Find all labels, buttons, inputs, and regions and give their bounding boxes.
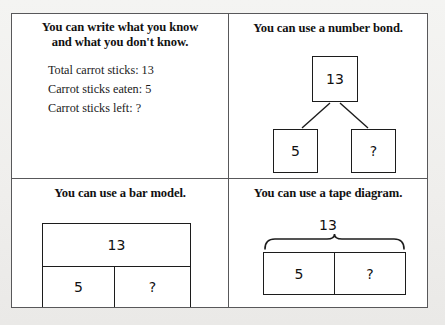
bar-model-diagram: 13 5 ? (42, 223, 191, 307)
fact-list: Total carrot sticks: 13 Carrot sticks ea… (48, 61, 228, 118)
tape-diagram-total-label: 13 (229, 216, 427, 234)
quadrant-tape-diagram: You can use a tape diagram. 13 5 ? (229, 179, 427, 307)
bar-model-total-cell: 13 (43, 224, 190, 267)
bar-model-part-unknown-cell: ? (115, 267, 190, 307)
tape-diagram-part-unknown-value: ? (366, 267, 373, 281)
fact-total: Total carrot sticks: 13 (48, 61, 228, 80)
number-bond-part-known-value: 5 (291, 144, 300, 158)
tape-diagram-rect: 5 ? (263, 252, 406, 295)
bar-model-total-value: 13 (108, 238, 126, 252)
number-bond-diagram: 13 5 ? (229, 14, 427, 178)
number-bond-part-unknown-value: ? (370, 144, 377, 158)
tape-diagram-diagram: 13 5 ? (229, 179, 427, 307)
fact-left: Carrot sticks left: ? (48, 99, 228, 118)
tape-diagram-part-known-value: 5 (295, 267, 304, 281)
fact-eaten: Carrot sticks eaten: 5 (48, 80, 228, 99)
number-bond-part-unknown-box: ? (351, 129, 396, 173)
tape-diagram-part-known-cell: 5 (264, 253, 335, 294)
bar-model-parts-row: 5 ? (43, 267, 190, 307)
quadrant-bar-model: You can use a bar model. 13 5 ? (12, 179, 229, 307)
bar-model-part-known-cell: 5 (43, 267, 115, 307)
quadrant-write-what-you-know: You can write what you know and what you… (12, 14, 229, 179)
tape-diagram-part-unknown-cell: ? (335, 253, 405, 294)
number-bond-total-value: 13 (326, 72, 344, 86)
heading-line-1: You can write what you know (20, 20, 220, 35)
write-what-you-know-heading: You can write what you know and what you… (12, 14, 228, 50)
number-bond-total-box: 13 (312, 56, 358, 102)
bar-model-part-known-value: 5 (74, 280, 83, 294)
heading-line-2: and what you don't know. (20, 35, 220, 50)
tape-diagram-brace-icon (263, 234, 406, 250)
tape-diagram-total-value: 13 (319, 217, 337, 233)
number-bond-part-known-box: 5 (273, 129, 318, 173)
bar-model-heading: You can use a bar model. (12, 179, 228, 201)
strategies-chart-frame: You can write what you know and what you… (11, 13, 428, 308)
quadrant-number-bond: You can use a number bond. 13 5 ? (229, 14, 427, 179)
bar-model-part-unknown-value: ? (149, 280, 156, 294)
